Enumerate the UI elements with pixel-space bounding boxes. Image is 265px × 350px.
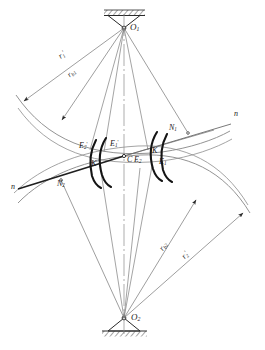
radius-lines-upper (24, 28, 188, 152)
figure-canvas: O1 O2 r1' rb1 rb2 r2' N1 N2 n n C E2 E1 … (0, 0, 265, 350)
label-E2: E2 (134, 156, 141, 164)
label-C: C (127, 156, 132, 164)
label-E1: E1 (159, 158, 166, 166)
label-n-left: n (11, 183, 15, 191)
label-N2: N2 (57, 180, 65, 188)
label-E1-prime: E1' (110, 140, 118, 149)
label-n-right: n (234, 110, 238, 118)
label-N1: N1 (169, 124, 177, 132)
radius-lines-lower (61, 166, 243, 318)
label-O2: O2 (131, 313, 140, 323)
label-O1: O1 (130, 23, 139, 33)
label-K-prime: K' (91, 160, 97, 168)
diagram-svg (0, 0, 265, 350)
label-K: K (152, 147, 157, 155)
label-E2-prime: E2' (79, 142, 87, 151)
